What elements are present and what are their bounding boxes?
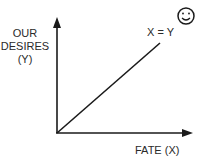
x-axis-arrow-icon — [182, 129, 193, 137]
y-axis-label-line-3: (Y) — [0, 53, 50, 66]
x-axis-label: FATE (X) — [135, 144, 179, 157]
y-axis-label-line-2: DESIRES — [0, 40, 50, 53]
y-axis-label: OUR DESIRES (Y) — [0, 27, 50, 66]
smiley-face-icon — [178, 8, 194, 24]
diagram-canvas — [0, 0, 205, 168]
y-axis-arrow-icon — [53, 17, 61, 28]
y-axis-label-line-1: OUR — [0, 27, 50, 40]
identity-line — [57, 43, 160, 133]
identity-line-label: X = Y — [147, 26, 174, 39]
